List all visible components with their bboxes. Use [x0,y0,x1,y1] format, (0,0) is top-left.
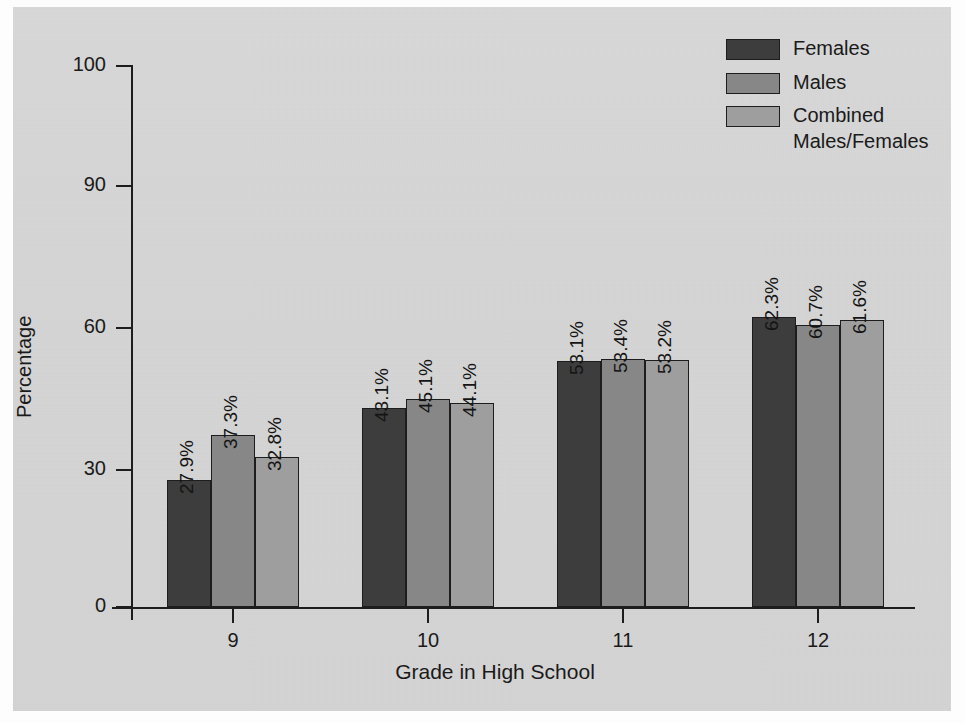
x-axis-tick [622,609,624,623]
x-axis-tick-label: 10 [388,629,468,652]
x-axis-tick [427,609,429,623]
bar-value-label: 37.3% [220,396,242,450]
x-axis-tick-label: 9 [193,629,273,652]
y-axis-title: Percentage [13,316,36,418]
bar-value-label: 62.3% [761,277,783,331]
y-axis-tick-label: 100 [21,53,106,76]
y-axis-tick [116,327,131,329]
legend-item: Males [726,70,956,96]
x-axis-title: Grade in High School [330,660,660,684]
bar [557,361,601,607]
legend-item: Females [726,36,956,62]
bar [167,480,211,607]
bar-value-label: 53.2% [654,320,676,374]
x-axis-tick-label: 11 [583,629,663,652]
bar [362,408,406,607]
bar-value-label: 61.6% [849,281,871,335]
bar [450,403,494,607]
legend-swatch [726,106,780,127]
bar [406,399,450,607]
bar [211,435,255,607]
bar-value-label: 53.1% [566,321,588,375]
legend-label: Males [793,70,846,96]
bar-value-label: 60.7% [805,285,827,339]
x-axis-tick [817,609,819,623]
legend-label: Females [793,36,870,62]
y-axis-tick [116,185,131,187]
legend-swatch [726,39,780,60]
y-axis-line [131,65,133,620]
bar-value-label: 45.1% [415,359,437,413]
bar-value-label: 53.4% [610,319,632,373]
chart-legend: FemalesMalesCombined Males/Females [726,36,956,162]
x-axis-tick [232,609,234,623]
legend-item: Combined Males/Females [726,103,956,154]
legend-swatch [726,73,780,94]
x-axis-tick-label: 12 [778,629,858,652]
bar [796,325,840,607]
y-axis-tick [116,606,131,608]
bar-value-label: 43.1% [371,368,393,422]
bar-value-label: 44.1% [459,363,481,417]
bar [645,360,689,607]
bar-value-label: 32.8% [264,417,286,471]
y-axis-tick [116,469,131,471]
bar [752,317,796,607]
chart-page: 0306090100927.9%37.3%32.8%1043.1%45.1%44… [0,0,965,723]
bar [255,457,299,607]
y-axis-tick-label: 30 [21,457,106,480]
legend-label: Combined Males/Females [793,103,929,154]
y-axis-tick [116,65,131,67]
bar [601,359,645,607]
bar-value-label: 27.9% [176,440,198,494]
y-axis-tick-label: 0 [21,594,106,617]
y-axis-tick-label: 90 [21,173,106,196]
bar [840,320,884,607]
